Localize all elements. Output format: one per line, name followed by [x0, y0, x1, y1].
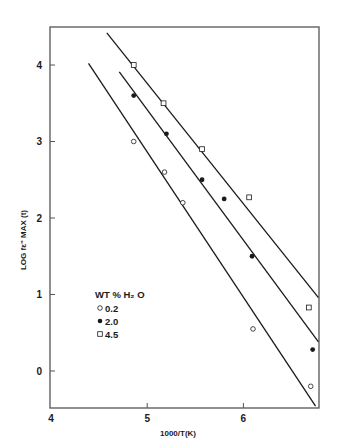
legend-label: 4.5: [105, 329, 119, 340]
legend-item-4.5: 4.5: [98, 329, 119, 340]
filled-circle-point: [222, 196, 227, 201]
filled-circle-point: [310, 347, 315, 352]
x-tick-label: 6: [241, 413, 247, 424]
x-tick-label: 4: [48, 413, 54, 424]
filled-circle-point: [164, 131, 169, 136]
x-tick-label: 5: [144, 413, 150, 424]
open-circle-point: [180, 200, 185, 205]
data-points: [131, 63, 315, 389]
filled-circle-point: [250, 254, 255, 259]
legend-label: 0.2: [105, 303, 118, 314]
filled-circle-point: [200, 177, 205, 182]
y-tick-label: 1: [36, 289, 42, 300]
arrhenius-plot: 45601234 1000/T(K) LOG fε" MAX (t) WT % …: [0, 0, 337, 448]
legend-label: 2.0: [105, 316, 118, 327]
filled-circle-marker-icon: [98, 319, 103, 324]
legend-item-2.0: 2.0: [98, 316, 119, 327]
legend-title: WT % H₂ O: [95, 289, 145, 300]
open-circle-point: [162, 170, 167, 175]
legend-item-0.2: 0.2: [98, 303, 119, 314]
open-square-point: [306, 305, 311, 310]
y-tick-label: 2: [36, 213, 42, 224]
axis-ticks: 45601234: [36, 60, 246, 425]
legend: WT % H₂ O 0.2 2.0 4.5: [95, 289, 145, 340]
fit-line-0.2: [89, 63, 316, 406]
filled-circle-point: [131, 93, 136, 98]
fit-line-4.5: [107, 33, 319, 298]
y-tick-label: 0: [36, 366, 42, 377]
open-square-point: [247, 195, 252, 200]
x-axis-title: 1000/T(K): [160, 429, 196, 438]
open-circle-marker-icon: [98, 306, 103, 311]
fit-lines: [89, 33, 319, 406]
fit-line-2.0: [119, 72, 318, 342]
open-circle-point: [131, 139, 136, 144]
y-tick-label: 3: [36, 136, 42, 147]
y-tick-label: 4: [36, 60, 42, 71]
open-square-point: [200, 147, 205, 152]
y-axis-title: LOG fε" MAX (t): [19, 210, 28, 270]
open-square-point: [161, 101, 166, 106]
open-circle-point: [251, 327, 256, 332]
open-circle-point: [308, 384, 313, 389]
open-square-marker-icon: [98, 332, 103, 337]
open-square-point: [131, 63, 136, 68]
